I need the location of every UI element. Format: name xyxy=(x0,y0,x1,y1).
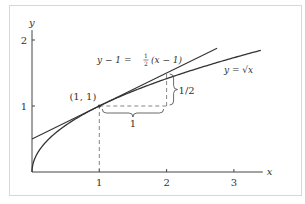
chart: x y 12312 (1, 1) y = √x y − 1 = 1 2 (x −… xyxy=(0,0,305,204)
x-axis-label: x xyxy=(267,166,273,177)
tangent-fraction-numerator: 1 xyxy=(144,52,148,59)
x-tick-label: 2 xyxy=(163,177,169,188)
rise-label: 1/2 xyxy=(179,85,195,96)
tangent-fraction-denominator: 2 xyxy=(144,60,148,67)
tangency-point xyxy=(98,104,101,107)
y-axis-label: y xyxy=(28,17,35,28)
run-label: 1 xyxy=(130,118,136,129)
tangent-equation: y − 1 = 1 2 (x − 1) xyxy=(96,52,183,67)
x-tick-label: 1 xyxy=(96,177,102,188)
run-brace xyxy=(102,109,163,117)
point-label: (1, 1) xyxy=(69,91,96,102)
curve-label: y = √x xyxy=(223,65,253,75)
x-tick-label: 3 xyxy=(231,177,237,188)
tangent-equation-rhs: (x − 1) xyxy=(151,55,183,65)
y-tick-label: 1 xyxy=(21,101,27,112)
y-tick-label: 2 xyxy=(21,35,27,46)
tangent-equation-lhs: y − 1 = xyxy=(96,55,131,65)
rise-brace xyxy=(170,74,178,105)
